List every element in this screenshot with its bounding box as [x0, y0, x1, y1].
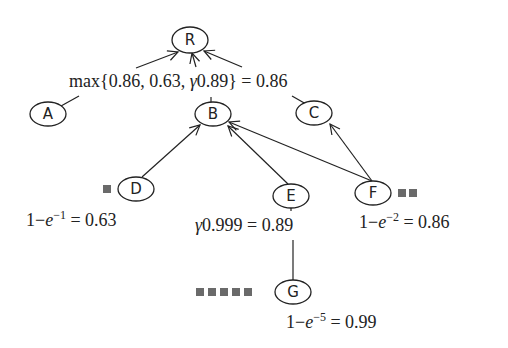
node-a-label: A: [43, 105, 54, 123]
node-b: B: [195, 102, 231, 126]
node-c-label: C: [309, 104, 319, 122]
annotation-g: 1−e−5 = 0.99: [286, 310, 377, 332]
node-a: A: [30, 102, 66, 126]
node-r: R: [172, 27, 208, 53]
node-g-label: G: [287, 283, 299, 301]
annotation-d: 1−e−1 = 0.63: [26, 208, 117, 230]
root-annotation: max{0.86, 0.63, γ0.89} = 0.86: [69, 71, 288, 91]
node-e: E: [273, 184, 309, 208]
node-c: C: [296, 101, 332, 125]
marker-squares-d: [103, 185, 111, 193]
edge-a-r-lower: [61, 96, 79, 106]
tree-diagram: R A B C D E F G max: [0, 0, 508, 348]
edge-a-r-upper: [136, 52, 178, 68]
node-e-label: E: [286, 187, 295, 205]
annotation-f: 1−e−2 = 0.86: [359, 210, 450, 232]
node-d-label: D: [130, 180, 142, 198]
edge-c-r-upper: [204, 51, 242, 67]
node-d: D: [118, 177, 154, 201]
node-f-label: F: [369, 184, 378, 202]
node-f: F: [355, 181, 391, 205]
node-b-label: B: [208, 105, 218, 123]
node-g: G: [275, 280, 311, 304]
marker-squares-f: [398, 189, 417, 197]
node-r-label: R: [185, 31, 195, 49]
marker-squares-g: [196, 288, 252, 296]
edge-e-b: [228, 126, 288, 184]
edge-b-r-upper: [192, 53, 196, 67]
annotation-e: γ0.999 = 0.89: [195, 215, 293, 235]
edge-d-b: [142, 125, 200, 177]
